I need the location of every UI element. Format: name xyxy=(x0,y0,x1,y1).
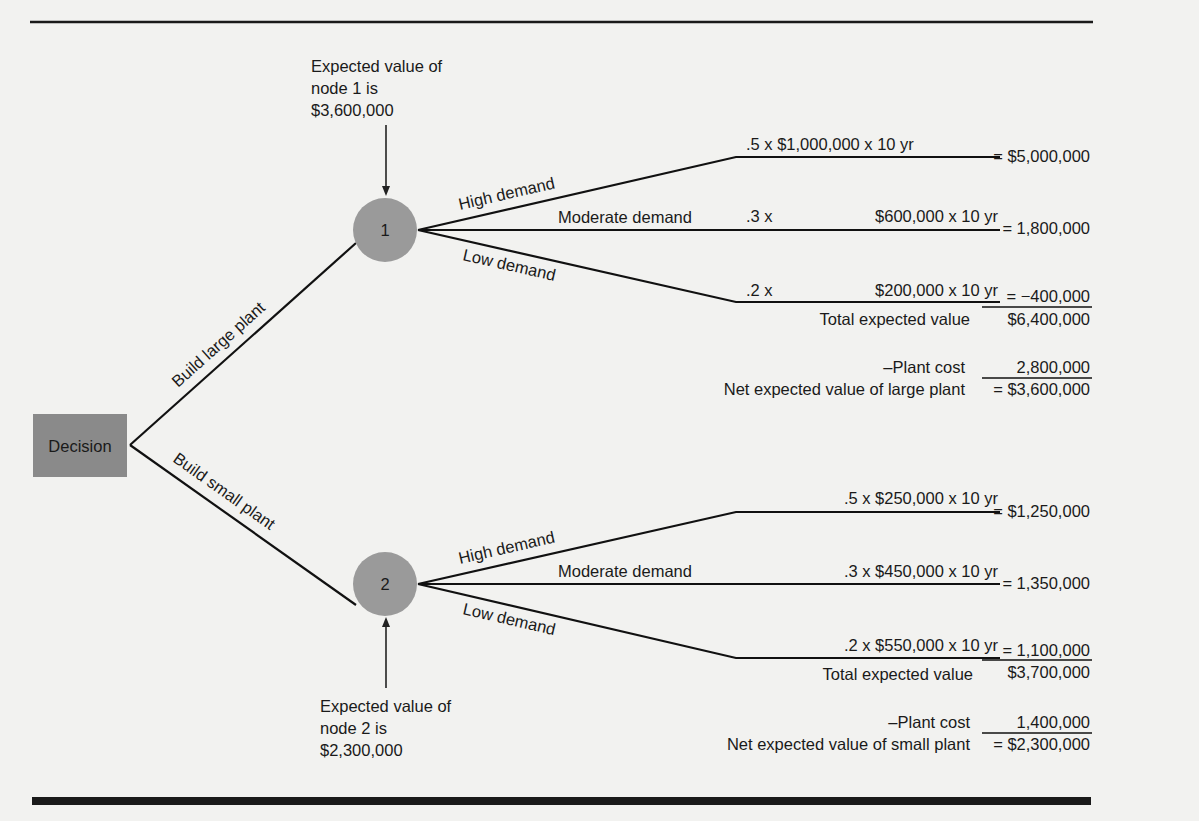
node2-low-value: = 1,100,000 xyxy=(1002,641,1090,659)
node2-net-value: = $2,300,000 xyxy=(993,735,1090,753)
node2-annotation-line2: node 2 is xyxy=(320,719,387,737)
decision-tree-figure: Decision Build large plant Build small p… xyxy=(0,0,1199,821)
decision-tree-svg: Decision Build large plant Build small p… xyxy=(0,0,1199,821)
node1-moderate-formula: $600,000 x 10 yr xyxy=(875,207,998,225)
node1-total-label: Total expected value xyxy=(820,310,970,328)
node1-annotation: Expected value of node 1 is $3,600,000 xyxy=(311,57,443,196)
node2-annotation-line3: $2,300,000 xyxy=(320,741,403,759)
node2-moderate-formula: .3 x $450,000 x 10 yr xyxy=(844,562,999,580)
chance-node-1: 1 xyxy=(353,198,417,262)
node1-low-value: = −400,000 xyxy=(1007,287,1091,305)
node1-total-value: $6,400,000 xyxy=(1007,310,1090,328)
branch-large-plant xyxy=(130,243,356,445)
node1-moderate-prefix: .3 x xyxy=(746,207,773,225)
node1-net-label: Net expected value of large plant xyxy=(724,380,966,398)
node2-cost-label: –Plant cost xyxy=(888,713,970,731)
node1-cost-value: 2,800,000 xyxy=(1017,358,1090,376)
node2-high-label: High demand xyxy=(457,528,557,567)
node2-net-label: Net expected value of small plant xyxy=(727,735,970,753)
node2-annotation-line1: Expected value of xyxy=(320,697,452,715)
decision-label: Decision xyxy=(48,437,111,455)
chance-node-2-label: 2 xyxy=(380,575,389,593)
node2-cost-value: 1,400,000 xyxy=(1017,713,1090,731)
node1-moderate-label: Moderate demand xyxy=(558,208,692,226)
branch-large-label: Build large plant xyxy=(168,298,269,391)
node1-annotation-line1: Expected value of xyxy=(311,57,443,75)
node2-high-formula: .5 x $250,000 x 10 yr xyxy=(844,489,999,507)
chance-node-2: 2 xyxy=(353,552,417,616)
node2-moderate-value: = 1,350,000 xyxy=(1002,574,1090,592)
node1-net-value: = $3,600,000 xyxy=(993,380,1090,398)
arrow-down-icon xyxy=(382,186,390,196)
node2-total-label: Total expected value xyxy=(823,665,973,683)
node1-annotation-line3: $3,600,000 xyxy=(311,101,394,119)
chance-node-1-label: 1 xyxy=(380,221,389,239)
node2-low-formula: .2 x $550,000 x 10 yr xyxy=(844,636,999,654)
node2-annotation: Expected value of node 2 is $2,300,000 xyxy=(320,617,452,759)
node2-total-value: $3,700,000 xyxy=(1007,663,1090,681)
node1-moderate-value: = 1,800,000 xyxy=(1002,219,1090,237)
node1-annotation-line2: node 1 is xyxy=(311,79,378,97)
node1-low-formula: $200,000 x 10 yr xyxy=(875,281,998,299)
node1-high-value: = $5,000,000 xyxy=(993,147,1090,165)
node2-high-value: = $1,250,000 xyxy=(993,502,1090,520)
branch-small-plant xyxy=(130,445,356,605)
decision-node: Decision xyxy=(33,414,127,477)
node1-high-label: High demand xyxy=(457,173,557,212)
node1-high-formula: .5 x $1,000,000 x 10 yr xyxy=(746,135,914,153)
node2-moderate-label: Moderate demand xyxy=(558,562,692,580)
node1-low-prefix: .2 x xyxy=(746,281,773,299)
arrow-up-icon xyxy=(382,617,390,627)
node1-cost-label: –Plant cost xyxy=(883,358,965,376)
branch-small-label: Build small plant xyxy=(170,449,279,533)
